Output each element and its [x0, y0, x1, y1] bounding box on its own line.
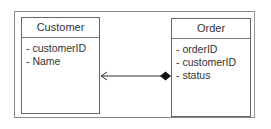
- composition-connector[interactable]: [0, 0, 271, 129]
- filled-diamond-icon: [160, 72, 171, 81]
